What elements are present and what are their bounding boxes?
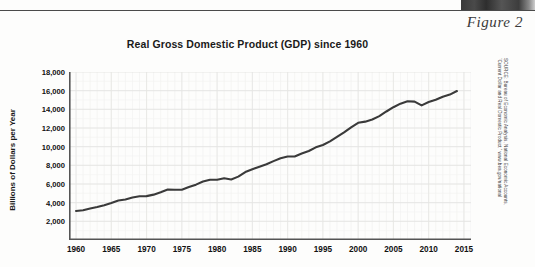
- gdp-line-chart: [69, 72, 471, 240]
- x-tick-label: 1975: [173, 245, 191, 254]
- plot-area: [69, 72, 471, 240]
- figure-page: Figure 2 Real Gross Domestic Product (GD…: [0, 0, 535, 267]
- y-tick-label: 18,000: [18, 68, 65, 77]
- page-header-bar: [461, 0, 535, 10]
- y-tick-label: 8,000: [18, 161, 65, 170]
- x-tick-label: 1960: [67, 245, 85, 254]
- y-axis-title: Billions of Dollars per Year: [8, 80, 17, 240]
- x-tick-label: 1965: [102, 245, 120, 254]
- x-tick-label: 1990: [279, 245, 297, 254]
- source-line-1: SOURCE: Bureau of Economic Analysis, Nat…: [502, 58, 508, 258]
- chart-title: Real Gross Domestic Product (GDP) since …: [0, 38, 495, 50]
- x-axis-tick-labels: 1960196519701975198019851990199520002005…: [0, 245, 535, 259]
- y-axis-tick-labels: 2,0004,0006,0008,00010,00012,00014,00016…: [18, 66, 65, 246]
- y-tick-label: 2,000: [18, 217, 65, 226]
- x-tick-label: 2015: [455, 245, 473, 254]
- source-note: SOURCE: Bureau of Economic Analysis, Nat…: [496, 58, 508, 258]
- y-tick-label: 14,000: [18, 105, 65, 114]
- minor-gridlines: [69, 72, 471, 240]
- x-tick-label: 2005: [384, 245, 402, 254]
- source-line-2: “Current Dollar and Real Domestic Produc…: [496, 58, 502, 258]
- header-divider-rule: [0, 10, 535, 11]
- x-tick-label: 2010: [420, 245, 438, 254]
- x-tick-label: 1980: [208, 245, 226, 254]
- y-tick-label: 4,000: [18, 198, 65, 207]
- x-tick-label: 2000: [349, 245, 367, 254]
- y-tick-label: 16,000: [18, 86, 65, 95]
- figure-label: Figure 2: [467, 14, 523, 31]
- y-tick-label: 12,000: [18, 124, 65, 133]
- x-tick-label: 1970: [137, 245, 155, 254]
- x-tick-label: 1995: [314, 245, 332, 254]
- y-tick-label: 6,000: [18, 180, 65, 189]
- x-tick-label: 1985: [243, 245, 261, 254]
- y-tick-label: 10,000: [18, 142, 65, 151]
